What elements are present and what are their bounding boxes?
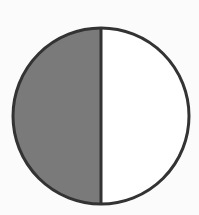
unshaded-half: [101, 28, 189, 204]
shaded-half: [13, 28, 101, 204]
fraction-circle-figure: [0, 0, 199, 215]
